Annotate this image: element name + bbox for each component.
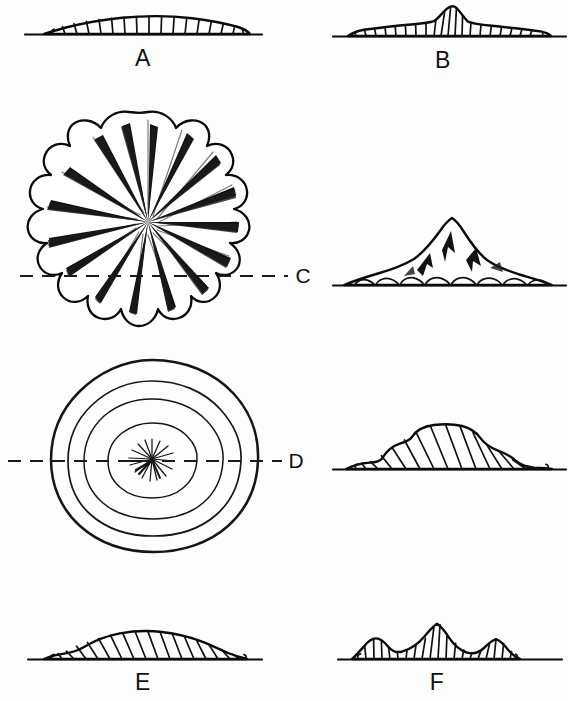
figure-background — [0, 0, 568, 701]
panel-e-label: E — [135, 669, 151, 695]
figure-plate: A B — [0, 0, 568, 701]
panel-d-label: D — [288, 449, 303, 472]
panel-a-label: A — [135, 45, 151, 71]
mound-morphology-figure: A B — [0, 0, 568, 701]
panel-c-label: C — [295, 264, 310, 287]
panel-b-label: B — [435, 47, 451, 73]
panel-f-label: F — [430, 669, 445, 695]
